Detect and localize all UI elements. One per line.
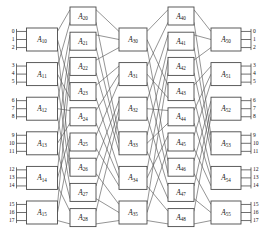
output-port-label: 5 bbox=[253, 78, 256, 84]
output-port-label: 7 bbox=[253, 105, 256, 111]
output-port-label: 11 bbox=[253, 148, 259, 154]
input-port-label: 4 bbox=[12, 70, 15, 76]
switch-node[interactable]: A51 bbox=[211, 63, 241, 86]
network-link bbox=[194, 48, 211, 144]
switch-node[interactable]: A25 bbox=[70, 133, 96, 151]
network-link bbox=[194, 73, 211, 152]
output-port-label: 10 bbox=[253, 140, 259, 146]
switch-node[interactable]: A44 bbox=[168, 108, 194, 126]
network-link bbox=[194, 174, 211, 205]
network-link bbox=[96, 221, 119, 224]
input-port-label: 13 bbox=[9, 174, 15, 180]
switch-node[interactable]: A26 bbox=[70, 158, 96, 176]
input-port-label: 9 bbox=[12, 132, 15, 138]
switch-node[interactable]: A48 bbox=[168, 209, 194, 227]
input-port-label: 10 bbox=[9, 140, 15, 146]
switch-node[interactable]: A46 bbox=[168, 158, 194, 176]
switch-node[interactable]: A50 bbox=[211, 28, 241, 51]
network-link bbox=[147, 109, 168, 111]
output-port-label: 17 bbox=[253, 217, 259, 223]
network-link bbox=[194, 66, 211, 85]
switch-node[interactable]: A33 bbox=[119, 132, 147, 155]
switch-node[interactable]: A41 bbox=[168, 32, 194, 50]
network-link bbox=[58, 186, 71, 211]
input-port-label: 0 bbox=[12, 28, 15, 34]
output-port-label: 2 bbox=[253, 44, 256, 50]
switch-node[interactable]: A42 bbox=[168, 57, 194, 75]
input-port-label: 8 bbox=[12, 113, 15, 119]
input-port-label: 6 bbox=[12, 97, 15, 103]
switch-node[interactable]: A55 bbox=[211, 201, 241, 224]
input-port-label: 1 bbox=[12, 36, 15, 42]
switch-node[interactable]: A27 bbox=[70, 183, 96, 201]
input-port-label: 5 bbox=[12, 78, 15, 84]
input-port-label: 11 bbox=[9, 148, 15, 154]
input-port-label: 15 bbox=[9, 201, 15, 207]
input-port-label: 3 bbox=[12, 62, 15, 68]
input-port-label: 16 bbox=[9, 209, 15, 215]
network-link bbox=[194, 48, 211, 61]
switch-node[interactable]: A23 bbox=[70, 83, 96, 101]
network-link bbox=[194, 109, 211, 186]
switch-node[interactable]: A45 bbox=[168, 133, 194, 151]
network-link bbox=[96, 48, 119, 61]
output-port-label: 9 bbox=[253, 132, 256, 138]
switch-node[interactable]: A11 bbox=[27, 63, 58, 86]
switch-node[interactable]: A53 bbox=[211, 132, 241, 155]
input-port-label: 7 bbox=[12, 105, 15, 111]
switch-node[interactable]: A32 bbox=[119, 97, 147, 120]
network-link bbox=[147, 60, 168, 170]
switch-node[interactable]: A21 bbox=[70, 32, 96, 50]
switch-node[interactable]: A43 bbox=[168, 83, 194, 101]
input-port-label: 2 bbox=[12, 44, 15, 50]
output-port-label: 16 bbox=[253, 209, 259, 215]
output-port-label: 1 bbox=[253, 36, 256, 42]
network-link bbox=[147, 48, 168, 161]
switch-node[interactable]: A24 bbox=[70, 108, 96, 126]
output-port-label: 15 bbox=[253, 201, 259, 207]
output-port-label: 14 bbox=[253, 182, 259, 188]
switch-node[interactable]: A13 bbox=[27, 132, 58, 155]
switch-node[interactable]: A10 bbox=[27, 28, 58, 51]
network-link bbox=[147, 136, 168, 178]
network-link bbox=[96, 148, 119, 186]
input-port-label: 12 bbox=[9, 166, 15, 172]
network-link bbox=[147, 40, 168, 86]
switch-node[interactable]: A15 bbox=[27, 201, 58, 224]
switch-node[interactable]: A47 bbox=[168, 183, 194, 201]
switch-node[interactable]: A52 bbox=[211, 97, 241, 120]
network-link bbox=[194, 22, 211, 135]
switch-node[interactable]: A34 bbox=[119, 166, 147, 189]
output-port-label: 13 bbox=[253, 174, 259, 180]
switch-node[interactable]: A12 bbox=[27, 97, 58, 120]
network-link bbox=[96, 22, 119, 135]
switch-node[interactable]: A30 bbox=[119, 28, 147, 51]
output-port-label: 3 bbox=[253, 62, 256, 68]
network-link bbox=[58, 60, 71, 170]
network-link bbox=[194, 10, 211, 32]
network-link bbox=[96, 48, 119, 144]
switch-node[interactable]: A14 bbox=[27, 166, 58, 189]
switch-node[interactable]: A40 bbox=[168, 7, 194, 25]
diagram-canvas: A10A11A12A13A14A15A20A21A22A23A24A25A26A… bbox=[0, 0, 270, 241]
switch-node[interactable]: A22 bbox=[70, 57, 96, 75]
network-link bbox=[147, 186, 168, 211]
output-port-label: 0 bbox=[253, 28, 256, 34]
switch-node[interactable]: A20 bbox=[70, 7, 96, 25]
network-link bbox=[58, 48, 71, 161]
network-link bbox=[147, 221, 168, 224]
network-link bbox=[194, 148, 211, 186]
switch-node[interactable]: A54 bbox=[211, 166, 241, 189]
switch-node[interactable]: A28 bbox=[70, 209, 96, 227]
switch-node[interactable]: A31 bbox=[119, 63, 147, 86]
switch-node[interactable]: A35 bbox=[119, 201, 147, 224]
network-link bbox=[96, 174, 119, 205]
port-layer: 0123456789101112131415161701234567891011… bbox=[9, 28, 259, 223]
output-port-label: 6 bbox=[253, 97, 256, 103]
network-link bbox=[194, 221, 211, 224]
input-port-label: 14 bbox=[9, 182, 15, 188]
network-link bbox=[96, 10, 119, 32]
network-diagram: A10A11A12A13A14A15A20A21A22A23A24A25A26A… bbox=[0, 0, 270, 241]
output-port-label: 8 bbox=[253, 113, 256, 119]
network-link bbox=[58, 109, 71, 111]
